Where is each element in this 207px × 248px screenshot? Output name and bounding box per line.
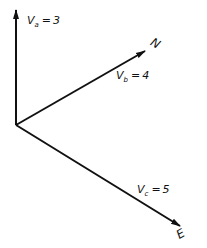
vector-diagram: Va=3 N Vb=4 E Vc=5 bbox=[0, 0, 207, 248]
vector-c-line bbox=[16, 125, 180, 226]
direction-label-north: N bbox=[148, 35, 163, 52]
vector-b-label: Vb=4 bbox=[116, 69, 149, 84]
vector-c-label: Vc=5 bbox=[137, 183, 170, 198]
vector-a-label: Va=3 bbox=[27, 14, 60, 29]
vector-b-line bbox=[16, 51, 145, 125]
direction-label-east: E bbox=[174, 226, 188, 242]
